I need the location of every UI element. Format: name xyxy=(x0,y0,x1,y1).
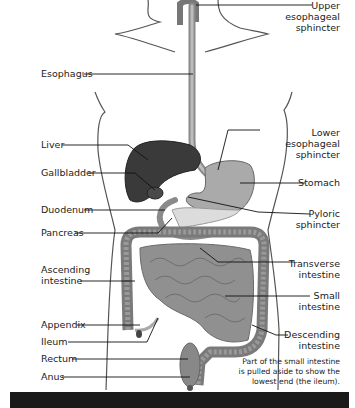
label-liver: Liver xyxy=(41,139,64,150)
label-descending-intestine: Descending intestine xyxy=(284,329,340,351)
label-transverse-intestine: Transverse intestine xyxy=(289,258,340,280)
label-anus: Anus xyxy=(41,371,65,382)
label-pancreas: Pancreas xyxy=(41,227,84,238)
label-ascending-intestine: Ascending intestine xyxy=(41,264,90,286)
label-stomach: Stomach xyxy=(298,177,340,188)
label-gallbladder: Gallbladder xyxy=(41,167,96,178)
label-small-intestine: Small intestine xyxy=(299,290,340,312)
label-upper-esophageal-sphincter: Upper esophageal sphincter xyxy=(285,0,340,33)
label-rectum: Rectum xyxy=(41,353,77,364)
bottom-bar xyxy=(10,392,349,408)
gallbladder-shape xyxy=(147,187,163,199)
label-appendix: Appendix xyxy=(41,319,86,330)
label-pyloric-sphincter: Pyloric sphincter xyxy=(296,208,340,230)
label-ileum: Ileum xyxy=(41,336,68,347)
label-esophagus: Esophagus xyxy=(41,68,93,79)
pancreas-shape xyxy=(172,208,240,228)
label-lower-esophageal-sphincter: Lower esophageal sphincter xyxy=(285,127,340,160)
label-duodenum: Duodenum xyxy=(41,204,93,215)
leader-lines xyxy=(62,5,312,377)
caption-note: Part of the small intestine is pulled as… xyxy=(239,357,340,387)
